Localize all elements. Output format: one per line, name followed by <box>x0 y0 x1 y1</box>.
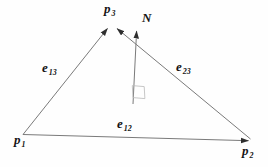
edge-label-e23: e23 <box>176 60 190 75</box>
edge-label-e12: e12 <box>117 117 131 132</box>
normal-vector-label: N <box>142 11 151 26</box>
vertex-label-p1: p1 <box>14 133 25 148</box>
triangle-normal-diagram: p1 p2 p3 e13 e23 e12 N <box>0 0 268 167</box>
edge-vector-e13 <box>23 29 108 135</box>
edge-vector-e12 <box>23 135 249 141</box>
diagram-canvas <box>0 0 268 167</box>
vertex-label-p3: p3 <box>104 2 115 17</box>
edge-vector-e23 <box>117 29 251 140</box>
vertex-label-p2: p2 <box>242 144 253 159</box>
edge-label-e13: e13 <box>42 61 56 76</box>
